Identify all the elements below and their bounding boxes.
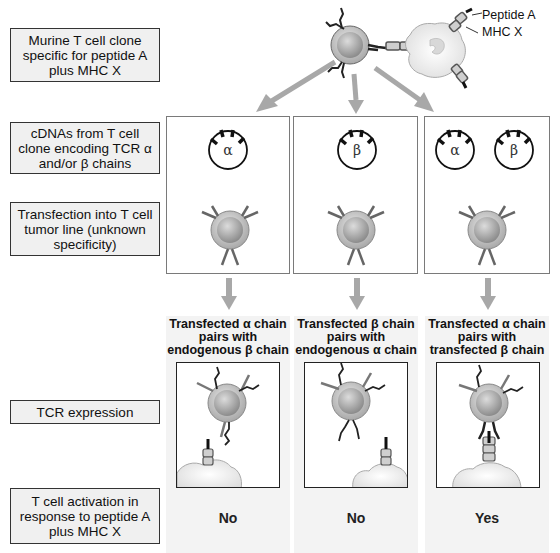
label-expression: TCR expression: [10, 400, 160, 424]
svg-text:α: α: [223, 142, 233, 158]
mhc-x-annotation: MHC X: [482, 25, 522, 39]
svg-text:β: β: [353, 142, 361, 158]
result-title-col3: Transfected α chain pairs with transfect…: [425, 318, 549, 357]
expression-illustration-col3: [437, 363, 540, 488]
svg-text:β: β: [510, 142, 518, 158]
activation-answer-col1: No: [166, 510, 290, 526]
plasmid-alpha-col3: α: [432, 124, 482, 172]
down-arrow-col1: [221, 278, 237, 312]
label-activation-text: T cell activation in response to peptide…: [15, 494, 155, 539]
down-arrow-col2: [349, 278, 365, 312]
label-cdnas-text: cDNAs from T cell clone encoding TCR α a…: [15, 126, 155, 171]
label-expression-text: TCR expression: [37, 405, 134, 420]
result-title-col2: Transfected β chain pairs with endogenou…: [294, 318, 418, 357]
expression-box-col3: [436, 362, 540, 488]
label-transfection: Transfection into T cell tumor line (unk…: [10, 202, 160, 256]
peptide-a-annotation: Peptide A: [482, 8, 536, 22]
plasmid-beta-col3: β: [491, 124, 541, 172]
expression-box-col2: [304, 362, 408, 488]
tumor-cell-col1: [190, 190, 270, 270]
label-clone: Murine T cell clone specific for peptide…: [10, 28, 160, 82]
down-arrow-col3: [480, 278, 496, 312]
label-cdnas: cDNAs from T cell clone encoding TCR α a…: [10, 122, 160, 174]
activation-answer-col2: No: [294, 510, 418, 526]
result-title-col1: Transfected α chain pairs with endogenou…: [166, 318, 290, 357]
expression-illustration-col2: [305, 363, 408, 488]
label-transfection-text: Transfection into T cell tumor line (unk…: [15, 207, 155, 252]
branch-arrows: [220, 60, 460, 120]
tumor-cell-col2: [316, 190, 396, 270]
label-activation: T cell activation in response to peptide…: [10, 488, 160, 544]
plasmid-alpha-col1: α: [205, 124, 255, 172]
tumor-cell-col3: [447, 190, 527, 270]
label-clone-text: Murine T cell clone specific for peptide…: [15, 33, 155, 78]
expression-box-col1: [176, 362, 280, 488]
activation-answer-col3: Yes: [425, 510, 549, 526]
expression-illustration-col1: [177, 363, 280, 488]
svg-text:α: α: [450, 142, 460, 158]
plasmid-beta-col2: β: [334, 124, 384, 172]
